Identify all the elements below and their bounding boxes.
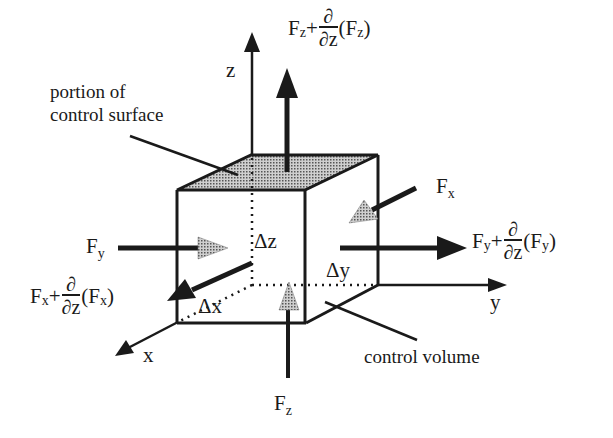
partial-denominator: ∂z <box>319 28 338 50</box>
force-symbol: F <box>274 391 286 415</box>
fx-back-label: Fx <box>436 176 455 197</box>
control-volume-note: control volume <box>364 345 480 368</box>
plus-sign: + <box>49 286 61 307</box>
partial-numerator: ∂ <box>62 274 81 296</box>
z-axis <box>244 32 260 155</box>
fz-top-label: Fz+ ∂∂z (Fz) <box>288 6 370 50</box>
control-volume-diagram: z y x Δz Δy Δx portion of control surfac… <box>0 0 613 438</box>
partial-numerator: ∂ <box>504 219 523 241</box>
force-subscript: x <box>448 186 455 201</box>
force-symbol: F <box>472 231 484 252</box>
force-symbol: F <box>436 174 448 198</box>
force-subscript: z <box>286 403 292 418</box>
control-volume-leader <box>325 302 417 340</box>
partial-derivative: ∂∂z <box>62 274 81 318</box>
top-face-control-surface <box>177 155 378 190</box>
x-axis-label: x <box>143 345 154 366</box>
control-surface-note-line1: portion of <box>50 80 163 103</box>
force-subscript: x <box>42 294 49 308</box>
force-symbol: F <box>30 286 42 307</box>
force-subscript: z <box>300 26 306 40</box>
control-surface-note: portion of control surface <box>50 80 163 126</box>
plus-sign: + <box>491 231 503 252</box>
fz-bottom-arrow <box>279 282 299 378</box>
force-arg-subscript: z <box>357 26 363 40</box>
fy-right-label: Fy+ ∂∂z (Fy) <box>472 219 556 263</box>
close-paren: ) <box>549 231 556 252</box>
control-surface-note-line2: control surface <box>50 103 163 126</box>
fx-back-arrow <box>349 188 416 223</box>
delta-y-label: Δy <box>326 260 350 281</box>
force-arg-subscript: y <box>542 239 549 253</box>
force-symbol: F <box>288 18 300 39</box>
force-subscript: y <box>98 246 105 261</box>
fy-left-arrow <box>118 237 228 259</box>
delta-z-label: Δz <box>254 231 277 252</box>
control-surface-leader <box>130 136 238 175</box>
z-axis-label: z <box>226 60 235 81</box>
partial-derivative: ∂∂z <box>319 6 338 50</box>
fy-left-label: Fy <box>86 236 105 257</box>
partial-denominator: ∂z <box>504 241 523 263</box>
partial-derivative: ∂∂z <box>504 219 523 263</box>
force-arg-subscript: x <box>100 294 107 308</box>
y-axis <box>378 278 507 292</box>
force-symbol: F <box>86 234 98 258</box>
close-paren: ) <box>363 18 370 39</box>
force-arg: (F <box>81 286 100 307</box>
fy-right-arrow <box>340 236 467 260</box>
force-subscript: y <box>484 239 491 253</box>
plus-sign: + <box>306 18 318 39</box>
y-axis-label: y <box>490 292 501 313</box>
force-arg: (F <box>523 231 542 252</box>
fx-front-label: Fx+ ∂∂z (Fx) <box>30 274 114 318</box>
fz-bottom-label: Fz <box>274 393 292 414</box>
partial-numerator: ∂ <box>319 6 338 28</box>
delta-x-label: Δx <box>198 296 222 317</box>
partial-denominator: ∂z <box>62 296 81 318</box>
close-paren: ) <box>107 286 114 307</box>
force-arg: (F <box>339 18 358 39</box>
